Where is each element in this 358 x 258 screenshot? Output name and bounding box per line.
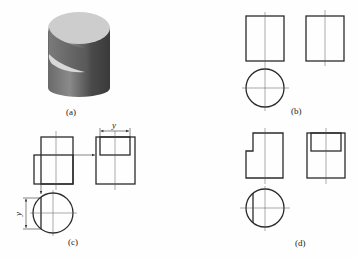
d-front-view — [246, 133, 283, 178]
c-front-view-main — [41, 137, 73, 184]
panel-a-isometric-cylinder: (a) — [48, 12, 110, 117]
c-dim-label-top: y — [111, 120, 116, 130]
c-front-view-lower — [34, 155, 73, 184]
technical-drawing: (a) (b) y — [0, 0, 358, 258]
panel-label-b: (b) — [291, 106, 302, 116]
panel-d-final-views: (d) — [240, 128, 345, 248]
c-side-view — [96, 137, 135, 184]
panel-label-a: (a) — [66, 107, 76, 117]
panel-c-construction: y y (c) — [13, 120, 135, 247]
panel-label-d: (d) — [295, 238, 306, 248]
panel-label-c: (c) — [68, 237, 78, 247]
c-dim-label-left: y — [13, 212, 23, 217]
panel-b-three-views: (b) — [242, 10, 344, 116]
